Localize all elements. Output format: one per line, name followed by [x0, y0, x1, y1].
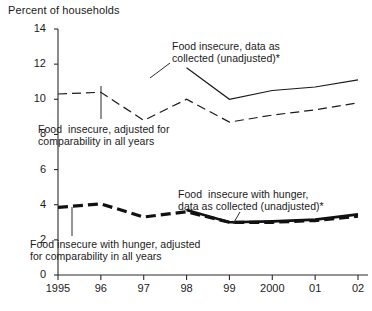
y-tick-label-4: 4	[20, 198, 46, 210]
y-tick-label-2: 2	[20, 233, 46, 245]
annotation-unadjusted-hunger: Food insecure with hunger, data as colle…	[178, 188, 324, 213]
x-tick-label-97: 97	[122, 282, 166, 294]
annotation-adjusted-hunger: Food insecure with hunger, adjusted for …	[30, 238, 200, 263]
x-tick-label-02: 02	[336, 282, 372, 294]
series-line-1	[58, 92, 358, 122]
x-tick-label-1995: 1995	[36, 282, 80, 294]
x-tick-label-96: 96	[79, 282, 123, 294]
x-tick-label-98: 98	[165, 282, 209, 294]
x-tick-label-2000: 2000	[250, 282, 294, 294]
y-tick-label-0: 0	[20, 268, 46, 280]
annotation-adjusted-insecure: Food insecure, adjusted for comparabilit…	[38, 123, 170, 148]
y-tick-label-12: 12	[20, 57, 46, 69]
y-tick-label-14: 14	[20, 22, 46, 34]
x-tick-label-99: 99	[207, 282, 251, 294]
y-tick-label-6: 6	[20, 163, 46, 175]
x-tick-label-01: 01	[293, 282, 337, 294]
series-line-0	[187, 68, 358, 100]
y-tick-label-8: 8	[20, 127, 46, 139]
y-tick-label-10: 10	[20, 92, 46, 104]
annotation-unadjusted-insecure: Food insecure, data as collected (unadju…	[172, 40, 280, 65]
leader-line-0	[150, 63, 170, 78]
chart-container: Percent of households Food insecure, dat…	[0, 0, 372, 311]
